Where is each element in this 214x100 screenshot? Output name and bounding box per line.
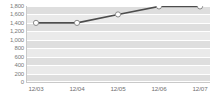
y-axis-line (26, 6, 27, 82)
data-point-marker (197, 6, 202, 9)
y-axis-tick-label: 1,200 (0, 28, 24, 34)
x-axis-tick-labels: 12/0312/0412/0512/0612/07 (26, 85, 210, 97)
y-axis-tick-label: 1,400 (0, 20, 24, 26)
y-axis-tick-label: 200 (0, 71, 24, 77)
y-axis-tick-label: 800 (0, 45, 24, 51)
data-point-marker (156, 6, 161, 9)
y-axis-tick-label: 600 (0, 54, 24, 60)
line-chart: 02004006008001,0001,2001,4001,6001,800 1… (0, 0, 214, 100)
y-axis-tick-label: 400 (0, 62, 24, 68)
series-line-group (26, 6, 210, 82)
plot-area (26, 6, 210, 82)
data-point-marker (33, 20, 38, 25)
x-axis-tick-label: 12/04 (57, 85, 97, 93)
y-axis-tick-label: 1,600 (0, 11, 24, 17)
x-axis-tick-label: 12/07 (180, 85, 214, 93)
x-axis-tick-label: 12/06 (139, 85, 179, 93)
y-axis-tick-label: 1,800 (0, 3, 24, 9)
x-axis-tick-label: 12/03 (16, 85, 56, 93)
data-point-marker (74, 20, 79, 25)
x-axis-line (26, 82, 210, 83)
data-point-marker (115, 12, 120, 17)
x-axis-tick-label: 12/05 (98, 85, 138, 93)
y-axis-tick-label: 1,000 (0, 37, 24, 43)
